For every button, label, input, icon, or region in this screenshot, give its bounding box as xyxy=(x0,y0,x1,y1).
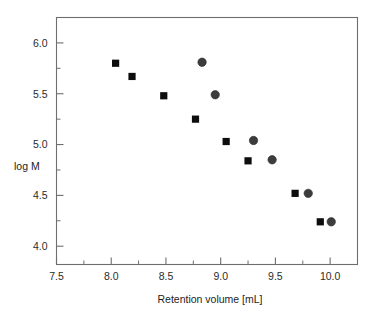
x-tick-label-4: 9.5 xyxy=(268,270,283,282)
y-tick-label-1: 4.5 xyxy=(33,189,48,201)
x-tick-label-3: 9.0 xyxy=(213,270,228,282)
y-tick-label-3: 5.5 xyxy=(33,88,48,100)
x-tick-label-5: 10.0 xyxy=(320,270,341,282)
x-tick-label-1: 8.0 xyxy=(104,270,119,282)
data-point-square-5 xyxy=(244,157,251,164)
data-point-square-4 xyxy=(223,138,230,145)
data-point-square-0 xyxy=(112,60,119,67)
data-point-circle-1 xyxy=(211,91,219,99)
data-point-square-6 xyxy=(292,190,299,197)
y-tick-label-0: 4.0 xyxy=(33,240,48,252)
x-axis-title: Retention volume [mL] xyxy=(157,293,262,305)
data-point-circle-3 xyxy=(268,156,276,164)
data-point-circle-5 xyxy=(327,218,335,226)
data-point-square-3 xyxy=(192,116,199,123)
data-point-square-2 xyxy=(160,92,167,99)
y-tick-label-4: 6.0 xyxy=(33,37,48,49)
x-tick-label-2: 8.5 xyxy=(159,270,174,282)
data-point-square-7 xyxy=(317,218,324,225)
y-tick-label-2: 5.0 xyxy=(33,138,48,150)
chart-canvas: 7.58.08.59.09.510.0 4.04.55.05.56.0 Rete… xyxy=(0,0,380,314)
data-point-circle-2 xyxy=(249,136,257,144)
y-axis-title: log M xyxy=(14,160,40,172)
data-point-circle-4 xyxy=(304,189,312,197)
data-point-circle-0 xyxy=(198,58,206,66)
scatter-chart: 7.58.08.59.09.510.0 4.04.55.05.56.0 Rete… xyxy=(0,0,380,314)
x-tick-label-0: 7.5 xyxy=(49,270,64,282)
data-point-square-1 xyxy=(128,73,135,80)
